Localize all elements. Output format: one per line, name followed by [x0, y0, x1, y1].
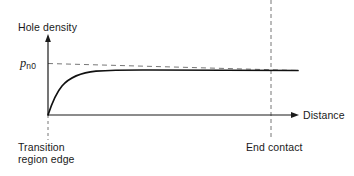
- end-contact-label: End contact: [246, 141, 303, 153]
- transition-region-edge-line2: region edge: [18, 153, 75, 165]
- x-axis-label: Distance: [303, 109, 345, 121]
- transition-region-edge-line1: Transition: [18, 141, 65, 153]
- pn0-subscript: n0: [26, 61, 36, 71]
- pn0-label: pn0: [20, 57, 36, 72]
- y-axis-label: Hole density: [18, 21, 77, 33]
- x-axis-arrowhead: [291, 112, 299, 118]
- hole-density-diagram: Hole density Distance pn0 Transitionregi…: [0, 0, 354, 176]
- transition-region-edge-label: Transitionregion edge: [18, 141, 75, 165]
- y-axis-arrowhead: [45, 34, 51, 42]
- hole-density-curve: [48, 70, 298, 115]
